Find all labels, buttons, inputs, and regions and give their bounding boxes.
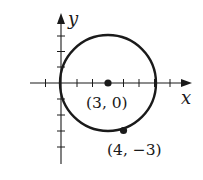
coordinate-plane: y x (3, 0) (4, −3) <box>0 0 203 180</box>
x-axis-label: x <box>181 87 191 108</box>
y-axis-arrow-icon <box>57 13 65 24</box>
center-label: (3, 0) <box>86 94 128 112</box>
point-label: (4, −3) <box>107 141 162 159</box>
y-axis-label: y <box>67 8 79 29</box>
point-on-circle <box>120 127 127 134</box>
x-axis-arrow-icon <box>181 79 192 87</box>
center-point <box>104 79 111 86</box>
